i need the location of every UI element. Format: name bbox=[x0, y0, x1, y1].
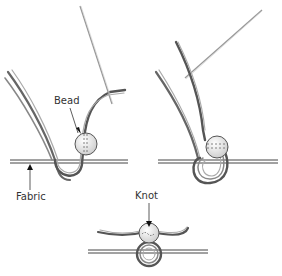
thread-strands bbox=[156, 42, 227, 183]
needle bbox=[80, 6, 113, 104]
fabric-line bbox=[10, 160, 128, 163]
bead-pointer-arrow bbox=[70, 108, 81, 134]
fabric-line bbox=[88, 250, 208, 253]
needle bbox=[185, 10, 262, 79]
diagram-canvas bbox=[0, 0, 282, 276]
label-knot: Knot bbox=[135, 190, 158, 201]
panel-step-2 bbox=[156, 10, 278, 183]
bead bbox=[206, 136, 228, 158]
label-bead: Bead bbox=[54, 95, 80, 106]
bead bbox=[75, 133, 97, 155]
fabric-pointer-arrow bbox=[27, 164, 33, 190]
label-fabric: Fabric bbox=[16, 191, 46, 202]
fabric-line bbox=[158, 160, 278, 163]
panel-step-3 bbox=[88, 203, 208, 266]
